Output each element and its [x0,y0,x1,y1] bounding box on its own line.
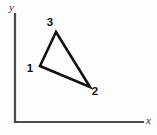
vertex-label-1: 1 [27,62,34,74]
x-axis-label: x [145,114,151,126]
figure-container: y x 1 2 3 [0,0,157,135]
triangle-diagram-svg: y x 1 2 3 [0,0,157,135]
y-axis-label: y [8,1,14,13]
triangle-shape [40,32,90,87]
vertex-label-2: 2 [92,85,98,97]
vertex-label-3: 3 [47,16,53,28]
